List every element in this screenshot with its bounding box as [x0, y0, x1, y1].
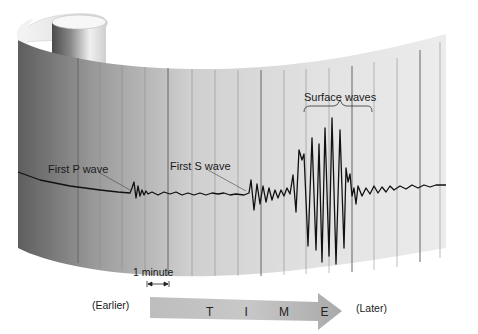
label-first-s-wave: First S wave [170, 160, 231, 172]
scale-bar [147, 281, 169, 287]
label-surface-waves: Surface waves [304, 91, 376, 103]
label-earlier: (Earlier) [92, 299, 129, 311]
label-scale-bar: 1 minute [133, 266, 173, 278]
label-later: (Later) [356, 302, 387, 314]
label-time: T I M E [206, 305, 342, 319]
drum-surface [18, 34, 446, 276]
seismogram-figure: First P wave First S wave Surface waves … [0, 0, 478, 334]
label-first-p-wave: First P wave [48, 163, 108, 175]
